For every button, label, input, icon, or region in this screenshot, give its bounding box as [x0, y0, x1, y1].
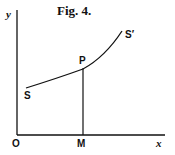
- origin-label: O: [12, 139, 20, 149]
- figure: Fig. 4. y x O M P S S′: [0, 0, 175, 155]
- foot-label-m: M: [77, 139, 85, 149]
- curve-end-label: S′: [125, 30, 134, 40]
- curve-s-s-prime: [26, 31, 122, 88]
- curve-start-label: S: [24, 91, 31, 101]
- y-axis-label: y: [6, 9, 11, 20]
- point-label-p: P: [79, 56, 86, 66]
- figure-title: Fig. 4.: [57, 4, 91, 17]
- x-axis-label: x: [156, 138, 162, 149]
- diagram-canvas: [0, 0, 175, 155]
